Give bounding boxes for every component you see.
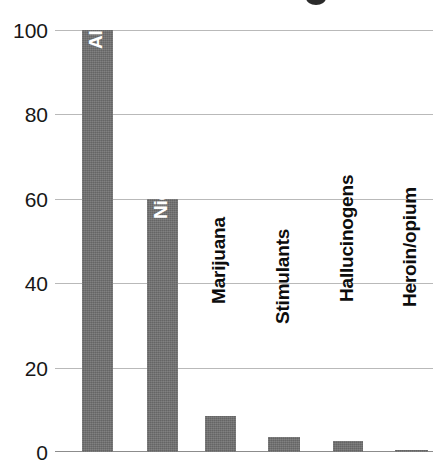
bar-label-stimulants: Stimulants (273, 229, 292, 324)
bar-heroin-opium (395, 450, 428, 453)
bar-stimulants (268, 437, 300, 452)
bar-label-hallucinogens: Hallucinogens (337, 175, 356, 302)
bar-label-alcohol: Alcohol (86, 0, 105, 49)
bar-hallucinogens (333, 441, 363, 452)
bar-nicotine (147, 199, 178, 452)
bar-label-heroin-opium: Heroin/opium (400, 187, 419, 307)
plot-area: Alcohol Nicotine Marijuana Stimulants Ha… (55, 30, 433, 452)
y-tick-80: 80 (0, 104, 48, 125)
y-tick-60: 60 (0, 188, 48, 209)
bar-label-marijuana: Marijuana (209, 217, 228, 304)
bar-chart: 100 80 60 40 20 0 Alcohol Nicotine Marij… (0, 0, 433, 474)
y-tick-100: 100 (0, 20, 48, 41)
y-tick-40: 40 (0, 273, 48, 294)
bar-alcohol (82, 30, 113, 452)
y-tick-0: 0 (0, 442, 48, 463)
cropped-top-glyph (306, 0, 326, 5)
y-axis-tick-labels: 100 80 60 40 20 0 (0, 30, 50, 452)
y-tick-20: 20 (0, 357, 48, 378)
bar-marijuana (205, 416, 236, 452)
bar-label-nicotine: Nicotine (151, 146, 170, 219)
